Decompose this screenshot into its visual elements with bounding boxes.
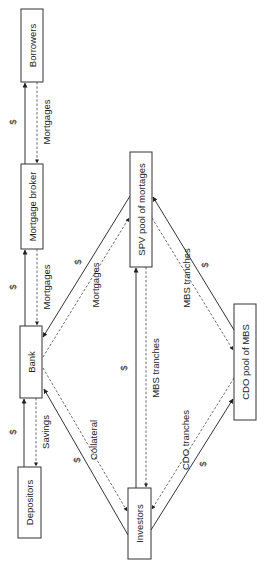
node-label: Borrowers <box>27 24 38 68</box>
label-cdo-tranches: CDO tranches <box>180 410 191 470</box>
node-label: Bank <box>26 351 37 373</box>
node-label: Depositors <box>24 480 35 526</box>
mbs-arrow-spv-to-cdo <box>152 218 233 350</box>
money-arrow-spv-to-bank <box>43 196 130 337</box>
node-label: SPV pool of mortages <box>136 163 147 256</box>
node-label: Mortgage broker <box>27 172 38 242</box>
mortgage-arrow-bank-to-spv <box>43 218 129 357</box>
label-mbs-tranches: MBS tranches <box>181 248 192 308</box>
node-depositors: Depositors <box>18 467 41 538</box>
label-mortgages: Mortgages <box>90 262 101 307</box>
node-borrowers: Borrowers <box>21 9 43 82</box>
node-spv-pool: SPV pool of mortages <box>130 152 152 267</box>
label-money: $ <box>72 259 83 265</box>
cdo-arrow-cdo-to-investors <box>152 378 234 509</box>
label-money: $ <box>7 284 18 290</box>
money-arrow-investors-to-cdo <box>151 399 233 530</box>
label-savings: Savings <box>40 415 51 449</box>
node-label: Investors <box>134 504 145 543</box>
node-investors: Investors <box>128 488 151 559</box>
label-money: $ <box>197 461 208 467</box>
collateral-arrow-bank-to-investors <box>43 368 127 511</box>
label-mortgages: Mortgages <box>41 99 52 144</box>
label-money: $ <box>7 429 18 435</box>
money-arrow-cdo-to-spv <box>153 197 234 330</box>
flow-diagram: $ Mortgages $ Mortgages $ Savings $ Mort… <box>0 0 272 574</box>
money-arrow-investors-to-bank <box>44 389 128 535</box>
node-label: CDO pool of MBS <box>240 324 251 400</box>
label-mortgages: Mortgages <box>41 264 52 309</box>
label-mbs-tranches: MBS tranches <box>150 338 161 398</box>
node-bank: Bank <box>20 326 42 398</box>
label-money: $ <box>118 365 129 371</box>
node-cdo-pool: CDO pool of MBS <box>234 304 256 420</box>
label-money: $ <box>199 262 210 268</box>
label-money: $ <box>71 457 82 463</box>
node-mortgage-broker: Mortgage broker <box>21 164 43 249</box>
label-collateral: Collateral <box>88 420 99 460</box>
label-money: $ <box>7 119 18 125</box>
